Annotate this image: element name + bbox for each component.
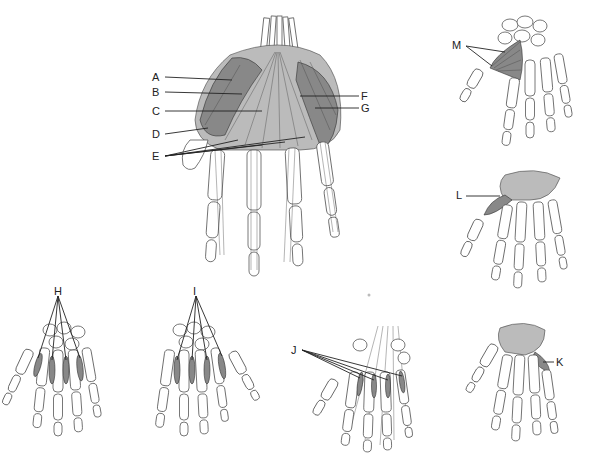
label-h: H [54,286,62,297]
lumbricals-view [302,326,414,452]
label-k: K [556,357,563,368]
label-e: E [152,151,159,162]
opponens-digiti-minimi-view [464,323,560,441]
label-g: G [361,103,370,114]
stray-dot [368,294,371,297]
label-a: A [152,72,159,83]
carpals-m [498,16,547,46]
label-j: J [291,345,297,356]
label-i: I [193,286,196,297]
dorsal-interossei-view [0,296,102,436]
label-l: L [456,190,462,201]
label-m: M [452,40,461,51]
palmar-interossei-view [154,296,262,436]
label-d: D [152,129,160,140]
main-fingers [203,141,341,276]
adductor-pollicis [490,40,523,80]
hand-anatomy-diagram [0,0,590,473]
main-hand-view [165,16,359,276]
adductor-pollicis-view [458,16,574,146]
opponens-pollicis-view [459,171,569,288]
label-b: B [152,87,159,98]
thumb [182,140,208,169]
carpal-muscle-mass-l [500,171,560,200]
carpals-j [353,339,410,364]
label-c: C [152,106,160,117]
label-f: F [361,91,368,102]
carpal-muscle-mass-k [498,323,545,355]
